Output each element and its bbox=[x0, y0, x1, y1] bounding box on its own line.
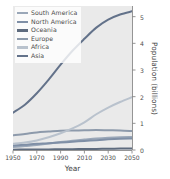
legend-item[interactable]: Oceania bbox=[17, 26, 79, 35]
legend-item-label: North America bbox=[31, 18, 77, 27]
y-axis-title-text: Population (billions) bbox=[150, 42, 159, 115]
legend-item-label: Asia bbox=[31, 52, 44, 61]
y-tick-label: 5 bbox=[140, 13, 144, 20]
legend-swatch-icon bbox=[17, 55, 28, 57]
legend-item[interactable]: Africa bbox=[17, 43, 79, 52]
chart-legend: South AmericaNorth AmericaOceaniaEuropeA… bbox=[15, 7, 81, 63]
x-tick-label: 2030 bbox=[100, 154, 116, 161]
legend-swatch-icon bbox=[17, 46, 28, 48]
legend-item[interactable]: Europe bbox=[17, 35, 79, 44]
x-tick-label: 1950 bbox=[5, 154, 21, 161]
legend-item[interactable]: North America bbox=[17, 18, 79, 27]
series-line-europe bbox=[13, 130, 132, 135]
chart-figure: South AmericaNorth AmericaOceaniaEuropeA… bbox=[0, 0, 170, 179]
y-axis-title: Population (billions) bbox=[148, 6, 160, 150]
x-tick-label: 1990 bbox=[53, 154, 69, 161]
legend-item-label: South America bbox=[31, 9, 77, 18]
legend-item-label: Oceania bbox=[31, 26, 57, 35]
x-axis-title: Year bbox=[13, 164, 132, 173]
series-line-oceania bbox=[13, 148, 132, 149]
x-tick-label: 2010 bbox=[77, 154, 93, 161]
legend-item-label: Africa bbox=[31, 43, 49, 52]
legend-swatch-icon bbox=[17, 21, 28, 23]
legend-item[interactable]: South America bbox=[17, 9, 79, 18]
y-tick-label: 1 bbox=[140, 120, 144, 127]
y-tick-label: 2 bbox=[140, 93, 144, 100]
x-tick-label: 1970 bbox=[29, 154, 45, 161]
x-tick-label: 2050 bbox=[124, 154, 140, 161]
legend-swatch-icon bbox=[17, 12, 28, 14]
legend-swatch-icon bbox=[17, 38, 28, 40]
y-tick-label: 4 bbox=[140, 40, 144, 47]
y-tick-label: 3 bbox=[140, 67, 144, 74]
legend-item-label: Europe bbox=[31, 35, 53, 44]
y-tick-label: 0 bbox=[140, 147, 144, 154]
legend-swatch-icon bbox=[17, 29, 28, 31]
legend-item[interactable]: Asia bbox=[17, 52, 79, 61]
